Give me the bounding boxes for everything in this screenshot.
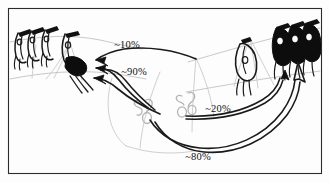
figure-root: ~10% ~90% ~20% ~80% — [0, 0, 330, 182]
right-figure-3-eye — [307, 34, 312, 40]
right-figure-2-eye — [293, 36, 298, 42]
flow-label-20: ~20% — [205, 103, 231, 114]
flow-label-80: ~80% — [185, 151, 211, 162]
right-figure-1-eye — [278, 38, 283, 44]
flow-label-10: ~10% — [114, 39, 140, 50]
flow-label-90: ~90% — [121, 66, 147, 77]
diagram-canvas: ~10% ~90% ~20% ~80% — [0, 0, 330, 182]
